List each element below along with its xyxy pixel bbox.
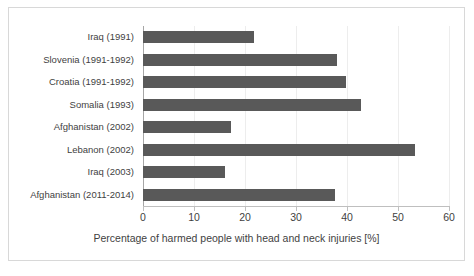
x-axis-title: Percentage of harmed people with head an… — [8, 232, 465, 244]
bar-row[interactable] — [143, 71, 449, 94]
y-axis-category-label: Iraq (1991) — [88, 26, 134, 49]
y-axis-category-label: Somalia (1993) — [70, 94, 134, 117]
bar-row[interactable] — [143, 26, 449, 49]
x-axis-line — [143, 206, 450, 207]
x-axis-tick-label: 20 — [225, 211, 265, 223]
bar[interactable] — [143, 76, 346, 88]
y-axis-category-label: Afghanistan (2002) — [54, 116, 134, 139]
bar-chart-figure: Iraq (1991)Slovenia (1991-1992)Croatia (… — [0, 0, 474, 276]
bar-row[interactable] — [143, 94, 449, 117]
gridline — [449, 26, 450, 206]
y-axis-category-label: Iraq (2003) — [88, 161, 134, 184]
plot-area — [143, 26, 449, 206]
y-axis-category-label: Lebanon (2002) — [67, 139, 134, 162]
x-axis-tick-label: 30 — [276, 211, 316, 223]
bar-row[interactable] — [143, 116, 449, 139]
bar-row[interactable] — [143, 161, 449, 184]
x-axis-tick-label: 10 — [174, 211, 214, 223]
x-axis-tick-label: 40 — [327, 211, 367, 223]
bar[interactable] — [143, 54, 337, 66]
bar[interactable] — [143, 189, 335, 201]
bar[interactable] — [143, 144, 415, 156]
y-axis-category-label: Croatia (1991-1992) — [49, 71, 134, 94]
x-axis-tick-label: 50 — [378, 211, 418, 223]
bar[interactable] — [143, 121, 231, 133]
x-axis-tick-label: 0 — [123, 211, 163, 223]
bar-row[interactable] — [143, 49, 449, 72]
y-axis-category-label: Slovenia (1991-1992) — [43, 49, 134, 72]
bar[interactable] — [143, 31, 254, 43]
bar-row[interactable] — [143, 139, 449, 162]
x-axis-tick-label: 60 — [429, 211, 469, 223]
bar[interactable] — [143, 99, 361, 111]
bar[interactable] — [143, 166, 225, 178]
y-axis-category-label: Afghanistan (2011-2014) — [30, 184, 134, 207]
y-axis-category-labels: Iraq (1991)Slovenia (1991-1992)Croatia (… — [0, 26, 139, 206]
bar-row[interactable] — [143, 184, 449, 207]
